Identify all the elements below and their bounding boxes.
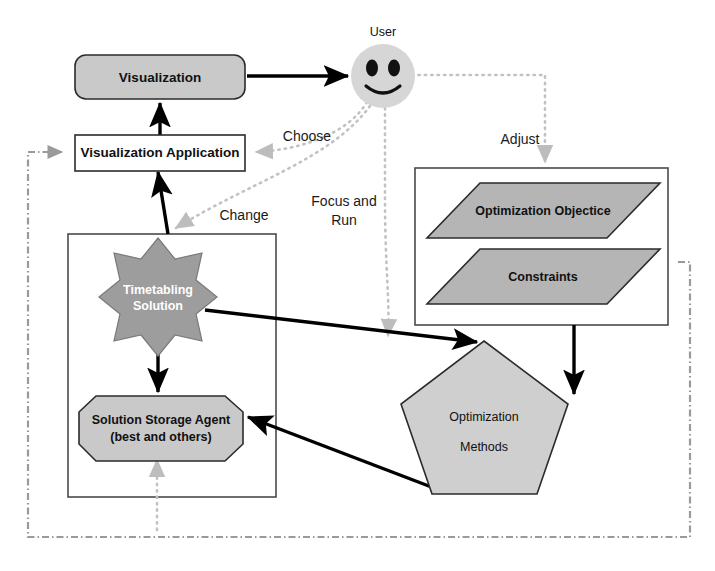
user-face-icon bbox=[351, 44, 415, 108]
adjust-flow-label: Adjust bbox=[501, 131, 540, 147]
node-optimization-methods[interactable]: Optimization Methods bbox=[401, 341, 568, 494]
optimization-objective-label: Optimization Objectice bbox=[475, 204, 610, 218]
optimization-methods-label-line2: Methods bbox=[460, 440, 508, 454]
visualization-application-label: Visualization Application bbox=[80, 145, 239, 160]
focus-and-run-dotted-edge bbox=[385, 108, 388, 336]
user-label: User bbox=[370, 25, 396, 39]
choose-flow-label: Choose bbox=[283, 128, 331, 144]
timetabling-solution-label-line2: Solution bbox=[133, 299, 183, 313]
constraints-label: Constraints bbox=[508, 270, 578, 284]
node-solution-storage-agent[interactable]: Solution Storage Agent (best and others) bbox=[79, 396, 243, 461]
node-constraints[interactable]: Constraints bbox=[427, 249, 660, 304]
solution-storage-agent-label-line1: Solution Storage Agent bbox=[92, 413, 231, 427]
diagram-canvas: Visualization Visualization Application … bbox=[0, 0, 715, 571]
solution-to-methods-edge bbox=[205, 310, 477, 342]
node-visualization[interactable]: Visualization bbox=[75, 55, 245, 99]
change-flow-label: Change bbox=[219, 207, 268, 223]
node-timetabling-solution[interactable]: Timetabling Solution bbox=[99, 238, 217, 356]
user-right-eye-icon bbox=[388, 60, 400, 77]
architecture-diagram: Visualization Visualization Application … bbox=[0, 0, 715, 571]
timetabling-solution-label-line1: Timetabling bbox=[123, 283, 193, 297]
user-left-eye-icon bbox=[366, 60, 378, 77]
focus-and-run-flow-label-line2: Run bbox=[331, 212, 357, 228]
focus-and-run-flow-label-line1: Focus and bbox=[311, 193, 376, 209]
node-visualization-application[interactable]: Visualization Application bbox=[75, 135, 245, 171]
node-user[interactable]: User bbox=[351, 25, 415, 108]
visualization-label: Visualization bbox=[119, 70, 201, 85]
optimization-methods-label-line1: Optimization bbox=[449, 410, 519, 424]
solution-storage-agent-shape bbox=[79, 396, 243, 461]
solution-to-application-edge bbox=[158, 172, 168, 234]
solution-storage-agent-label-line2: (best and others) bbox=[110, 430, 211, 444]
adjust-dotted-edge bbox=[412, 75, 545, 162]
node-optimization-objective[interactable]: Optimization Objectice bbox=[427, 183, 660, 238]
